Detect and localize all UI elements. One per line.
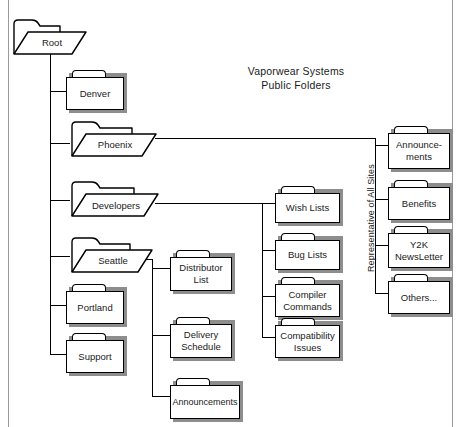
folder-body: Y2K NewsLetter [388, 233, 450, 268]
connector-developers-to-wish-lists [262, 203, 275, 204]
connector-root-to-portland [50, 305, 66, 306]
folder-body: Support [66, 340, 124, 373]
connector-developers-to-bus [155, 203, 262, 204]
connector-root-to-denver [50, 91, 66, 92]
folder-body: Delivery Schedule [170, 324, 232, 358]
folder-label: Bug Lists [286, 249, 329, 261]
connector-seattle-to-announcements [152, 396, 170, 397]
folder-body: Benefits [388, 187, 450, 220]
folder-phoenix[interactable]: Phoenix [70, 120, 158, 158]
folder-label: Distributor List [177, 262, 224, 286]
folder-body: Distributor List [170, 257, 232, 291]
folder-delivery-schedule[interactable]: Delivery Schedule [170, 317, 232, 358]
connector-developers-to-compiler [262, 296, 275, 297]
folder-wish-lists[interactable]: Wish Lists [275, 186, 340, 223]
connector-phoenix-to-sites-bus [155, 138, 376, 139]
folder-label: Support [76, 351, 113, 363]
folder-body: Announce- ments [388, 133, 450, 169]
folder-distributor-list[interactable]: Distributor List [170, 250, 232, 291]
folder-announcements[interactable]: Announce- ments [388, 126, 450, 169]
sites-group-caption: Representative of All Sites [366, 164, 376, 272]
connector-root-trunk [50, 52, 51, 354]
folder-developers[interactable]: Developers [70, 180, 160, 218]
connector-root-to-developers [50, 200, 70, 201]
folder-body: Others... [388, 281, 450, 314]
folder-body: Wish Lists [275, 193, 340, 223]
connector-sites-to-benefits [375, 199, 388, 200]
connector-seattle-bus [152, 259, 153, 396]
folder-label: Y2K NewsLetter [393, 239, 445, 263]
folder-denver[interactable]: Denver [66, 70, 124, 110]
folder-label: Wish Lists [284, 202, 331, 214]
folder-label: Delivery Schedule [179, 329, 223, 353]
folder-label: Announcements [170, 396, 239, 408]
connector-seattle-to-distributor-list [152, 268, 170, 269]
folder-label: Seattle [74, 255, 152, 266]
folder-label: Benefits [400, 198, 438, 210]
connector-sites-to-y2k [375, 245, 388, 246]
folder-body: Announcements [170, 385, 240, 419]
connector-sites-to-others [375, 293, 388, 294]
connector-developers-bus [262, 203, 263, 337]
folder-body: Portland [66, 291, 124, 324]
folder-label: Others... [399, 292, 439, 304]
page-border-left [8, 0, 9, 427]
connector-root-to-seattle [50, 256, 70, 257]
connector-developers-to-compatibility [262, 337, 275, 338]
folder-portland[interactable]: Portland [66, 284, 124, 324]
open-folder-shape [70, 180, 160, 218]
connector-sites-to-announcements [375, 145, 388, 146]
folder-label: Compatibility Issues [278, 330, 336, 354]
folder-label: Developers [74, 200, 158, 211]
folder-seattle-announcements[interactable]: Announcements [170, 378, 240, 419]
folder-label: Root [12, 37, 92, 48]
folder-label: Announce- ments [394, 139, 444, 163]
connector-seattle-to-delivery-schedule [152, 335, 170, 336]
folder-hierarchy-diagram: Vaporwear Systems Public Folders Represe… [0, 0, 463, 427]
folder-support[interactable]: Support [66, 333, 124, 373]
folder-label: Phoenix [74, 139, 156, 150]
connector-root-to-support [50, 354, 66, 355]
folder-seattle[interactable]: Seattle [70, 236, 154, 274]
folder-root[interactable]: Root [12, 18, 92, 56]
folder-body: Compatibility Issues [275, 325, 340, 358]
diagram-title: Vaporwear Systems Public Folders [216, 64, 376, 92]
folder-label: Denver [78, 88, 113, 100]
folder-y2k-newsletter[interactable]: Y2K NewsLetter [388, 226, 450, 268]
folder-label: Portland [75, 302, 114, 314]
folder-body: Denver [66, 77, 124, 110]
folder-compiler-commands[interactable]: Compiler Commands [275, 277, 340, 317]
folder-body: Bug Lists [275, 240, 340, 270]
folder-benefits[interactable]: Benefits [388, 180, 450, 220]
connector-developers-to-bug-lists [262, 250, 275, 251]
folder-label: Compiler Commands [281, 289, 334, 313]
folder-others[interactable]: Others... [388, 274, 450, 314]
connector-root-to-phoenix [50, 143, 70, 144]
folder-body: Compiler Commands [275, 284, 340, 317]
folder-compatibility-issues[interactable]: Compatibility Issues [275, 318, 340, 358]
folder-bug-lists[interactable]: Bug Lists [275, 233, 340, 270]
